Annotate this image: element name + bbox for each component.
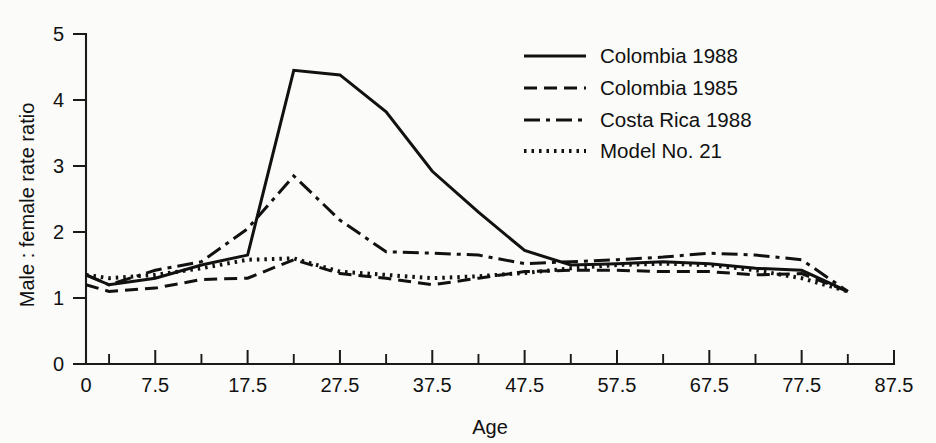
series-group bbox=[86, 70, 848, 291]
x-tick-label: 77.5 bbox=[782, 374, 821, 396]
x-tick-label: 47.5 bbox=[505, 374, 544, 396]
y-axis-tick-labels: 012345 bbox=[53, 23, 64, 375]
x-tick-label: 7.5 bbox=[141, 374, 169, 396]
y-tick-label: 2 bbox=[53, 221, 64, 243]
x-tick-label: 57.5 bbox=[598, 374, 637, 396]
y-tick-label: 4 bbox=[53, 89, 64, 111]
y-tick-label: 3 bbox=[53, 155, 64, 177]
legend-label-2: Colombia 1985 bbox=[600, 76, 738, 99]
x-tick-label: 87.5 bbox=[875, 374, 914, 396]
y-tick-label: 5 bbox=[53, 23, 64, 45]
x-tick-label: 27.5 bbox=[320, 374, 359, 396]
series-line-1 bbox=[86, 70, 848, 291]
y-axis-ticks bbox=[73, 34, 86, 364]
x-tick-label: 67.5 bbox=[690, 374, 729, 396]
y-tick-label: 1 bbox=[53, 287, 64, 309]
series-line-3 bbox=[86, 176, 848, 292]
legend-label-3: Costa Rica 1988 bbox=[600, 108, 752, 131]
axes bbox=[86, 34, 894, 364]
line-chart: Male : female rate ratio 012345 07.517.5… bbox=[0, 0, 936, 443]
y-axis-title: Male : female rate ratio bbox=[16, 103, 38, 308]
x-axis-title: Age bbox=[472, 416, 508, 438]
y-tick-label: 0 bbox=[53, 353, 64, 375]
x-tick-label: 37.5 bbox=[413, 374, 452, 396]
x-tick-label: 0 bbox=[80, 374, 91, 396]
x-tick-label: 17.5 bbox=[228, 374, 267, 396]
legend-label-4: Model No. 21 bbox=[600, 139, 722, 162]
x-axis-ticks bbox=[86, 350, 894, 364]
chart-figure: Male : female rate ratio 012345 07.517.5… bbox=[0, 0, 936, 443]
x-axis-tick-labels: 07.517.527.537.547.557.567.577.587.5 bbox=[80, 374, 913, 396]
chart-legend: Colombia 1988Colombia 1985Costa Rica 198… bbox=[524, 44, 752, 162]
legend-label-1: Colombia 1988 bbox=[600, 44, 738, 67]
